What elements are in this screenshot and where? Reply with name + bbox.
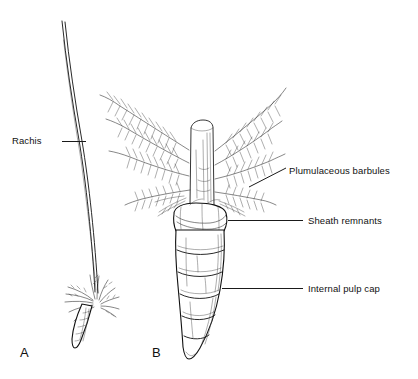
label-text-sheath-remnants: Sheath remnants [308, 215, 382, 226]
figure-canvas: Rachis Plumulaceous barbules Sheath remn… [0, 0, 418, 379]
feather-anatomy-figure: Rachis Plumulaceous barbules Sheath remn… [0, 0, 418, 379]
rachis-stub [190, 120, 214, 205]
label-text-plumulaceous-barbules: Plumulaceous barbules [289, 165, 390, 176]
panel-letter-b: B [152, 345, 161, 360]
label-text-rachis: Rachis [12, 135, 42, 146]
panel-letter-a: A [20, 345, 29, 360]
label-text-internal-pulp-cap: Internal pulp cap [308, 283, 380, 294]
